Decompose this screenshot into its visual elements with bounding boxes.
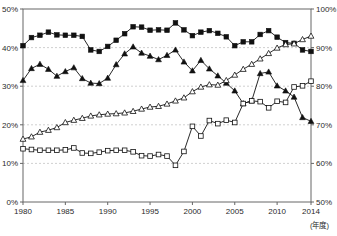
data-point-marker [173,21,178,26]
data-point-marker [63,148,68,153]
data-point-marker [257,56,263,61]
data-point-marker [131,150,136,155]
y-axis-left-tick-label: 30% [2,82,18,91]
data-point-marker [308,33,314,38]
data-point-marker [130,44,136,49]
data-point-marker [207,28,212,33]
data-point-marker [190,124,195,129]
data-point-marker [249,99,254,104]
data-point-marker [241,40,246,45]
y-axis-left-tick-label: 10% [2,159,18,168]
data-point-marker [54,125,60,130]
data-point-marker [309,49,314,54]
y-axis-right-tick-label: 80% [316,82,332,91]
data-point-marker [156,152,161,157]
data-point-marker [72,33,77,38]
data-point-marker [80,151,85,156]
data-point-marker [275,35,280,40]
data-point-marker [148,28,153,33]
data-point-marker [122,148,127,153]
data-point-marker [199,30,204,35]
data-point-marker [55,33,60,38]
data-point-marker [300,48,305,53]
data-point-marker [216,31,221,36]
data-point-marker [88,151,93,156]
data-point-marker [21,43,26,48]
y-axis-left-tick-label: 40% [2,44,18,53]
x-axis-tick-label: 2000 [184,207,202,216]
data-point-marker [207,118,212,123]
data-point-marker [122,31,127,36]
y-axis-right-tick-label: 70% [316,121,332,130]
data-point-marker [37,61,43,66]
data-point-marker [97,49,102,54]
data-point-marker [182,149,187,154]
data-point-marker [105,148,110,153]
x-axis-tick-label: 1985 [56,207,74,216]
chart-container: 0%10%20%30%40%50% 50%60%70%80%90%100% 19… [0,0,337,236]
data-point-marker [283,100,288,105]
data-point-marker [223,77,229,82]
y-axis-left-labels: 0%10%20%30%40%50% [2,5,18,207]
y-axis-left-tick-label: 50% [2,5,18,14]
data-point-marker [258,99,263,104]
y-axis-left-tick-label: 20% [2,121,18,130]
data-point-marker [148,154,153,159]
data-point-marker [275,99,280,104]
data-point-marker [21,146,26,151]
x-axis-unit-label: (年度) [310,220,329,230]
data-point-marker [29,35,34,40]
data-point-marker [232,120,237,125]
data-point-marker [114,148,119,153]
data-point-marker [29,65,35,70]
data-point-marker [249,61,255,66]
line-chart: 0%10%20%30%40%50% 50%60%70%80%90%100% 19… [0,0,337,236]
series-filled-square [21,21,314,54]
x-axis-tick-label: 2010 [268,207,286,216]
y-axis-right-labels: 50%60%70%80%90%100% [316,5,336,207]
data-point-marker [173,163,178,168]
data-point-marker [131,24,136,29]
data-point-marker [274,83,280,88]
data-point-marker [224,34,229,39]
data-point-marker [97,150,102,155]
data-point-marker [308,118,314,123]
data-point-marker [292,85,297,90]
data-point-marker [181,95,187,100]
data-point-marker [198,57,204,62]
data-point-marker [232,72,238,77]
data-point-marker [88,80,94,85]
data-series-group [20,21,314,168]
data-point-marker [309,79,314,84]
data-point-marker [62,69,68,74]
data-point-marker [216,121,221,126]
data-point-marker [29,147,34,152]
x-axis-tick-label: 1990 [99,207,117,216]
data-point-marker [139,25,144,30]
data-point-marker [266,50,272,55]
data-point-marker [182,28,187,33]
data-point-marker [266,28,271,33]
data-point-marker [224,118,229,123]
data-point-marker [300,84,305,89]
data-point-marker [190,33,195,38]
data-point-marker [266,69,272,74]
data-point-marker [283,88,289,93]
data-point-marker [199,134,204,139]
data-point-marker [258,32,263,37]
data-point-marker [156,28,161,33]
data-point-marker [46,66,52,71]
y-axis-right-tick-label: 50% [316,198,332,207]
y-axis-right-tick-label: 100% [316,5,336,14]
data-point-marker [249,40,254,45]
data-point-marker [139,50,145,55]
data-point-marker [300,114,306,119]
data-point-marker [72,146,77,151]
x-axis-tick-label: 2005 [226,207,244,216]
data-point-marker [46,30,51,35]
data-point-marker [114,38,119,43]
data-point-marker [241,101,246,106]
data-point-marker [139,153,144,158]
data-point-marker [71,65,77,70]
x-axis-tick-label: 1995 [141,207,159,216]
